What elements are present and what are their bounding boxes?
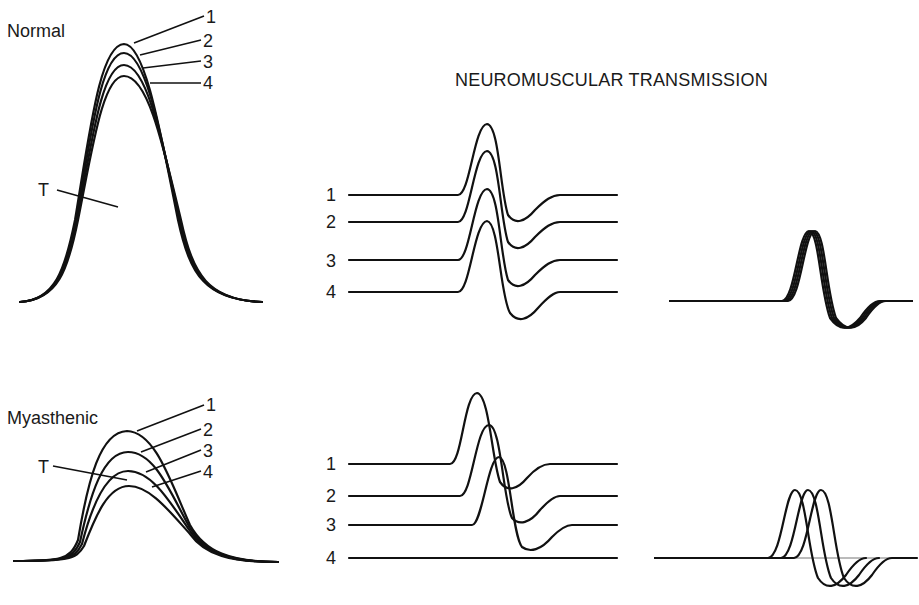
normal-leader-lines — [57, 16, 204, 207]
myasthenic-leader-lines — [53, 405, 204, 487]
normal-superimposed-potentials — [670, 231, 912, 328]
normal-action-potentials — [349, 124, 617, 319]
myasthenic-superimposed-potentials — [655, 490, 917, 586]
traces-canvas — [0, 0, 919, 605]
normal-tension-curves — [20, 44, 262, 302]
myasthenic-action-potentials — [349, 393, 617, 558]
